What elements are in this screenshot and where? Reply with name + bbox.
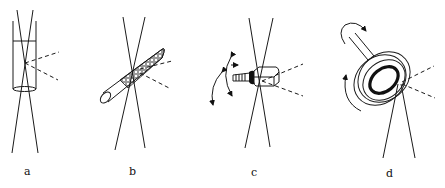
panel-c: c [212, 18, 303, 179]
incident-beam [383, 84, 415, 158]
capillary-tube [13, 21, 36, 92]
incident-beam [12, 10, 38, 153]
shaft [349, 33, 374, 60]
scattered-rays [402, 66, 435, 98]
figure-diagram: a b [0, 0, 445, 188]
panel-a: a [12, 10, 59, 178]
scattered-rays [25, 52, 59, 80]
panel-label-c: c [251, 166, 257, 179]
panel-label-d: d [386, 167, 393, 180]
panel-d: d [341, 23, 435, 180]
panel-b: b [98, 17, 172, 178]
powder-capillary [98, 49, 164, 105]
panel-label-a: a [24, 165, 31, 178]
scattered-rays [262, 64, 303, 96]
goniometer-head [233, 67, 279, 86]
disk-rotation-arrow [345, 75, 361, 111]
panel-label-b: b [129, 165, 136, 178]
shaft-rotation-arrow [341, 23, 366, 44]
